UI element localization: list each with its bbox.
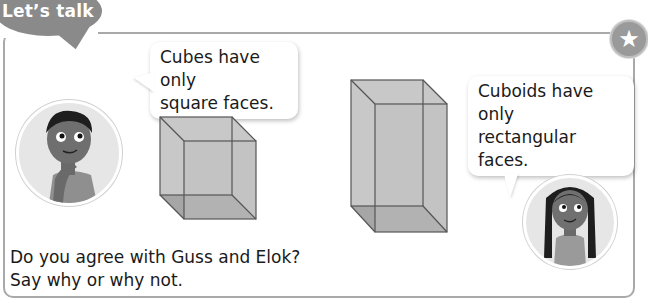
speech-tail	[134, 72, 154, 92]
cuboid-shape	[349, 78, 449, 234]
speech-tail	[504, 174, 518, 198]
speech-line: Cuboids have only	[478, 80, 624, 126]
cube-shape	[158, 115, 258, 221]
speech-bubble-elok: Cuboids have only rectangular faces.	[468, 76, 634, 176]
speech-line: Cubes have only	[160, 46, 288, 92]
speech-line: rectangular faces.	[478, 126, 624, 172]
avatar-guss	[16, 100, 122, 206]
question-line-1: Do you agree with Guss and Elok?	[10, 246, 300, 269]
boy-illustration	[19, 103, 119, 203]
speech-bubble-guss: Cubes have only square faces.	[150, 42, 298, 119]
discussion-question: Do you agree with Guss and Elok? Say why…	[10, 246, 300, 292]
girl-illustration	[526, 178, 614, 266]
section-title: Let’s talk	[2, 1, 94, 21]
avatar-elok	[523, 175, 617, 269]
star-glyph: ★	[618, 27, 640, 51]
star-icon: ★	[610, 20, 648, 58]
speech-line: square faces.	[160, 92, 288, 115]
question-line-2: Say why or why not.	[10, 269, 300, 292]
